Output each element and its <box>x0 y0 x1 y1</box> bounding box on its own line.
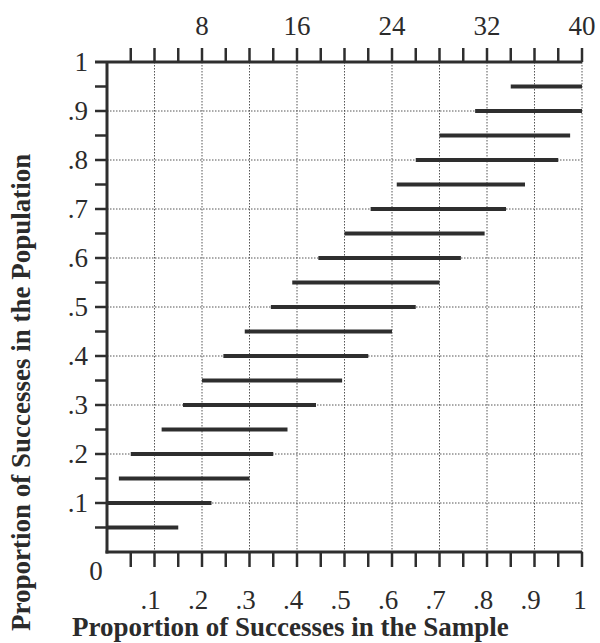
y-tick-label: .1 <box>68 488 88 518</box>
x-tick-label: .5 <box>330 585 350 615</box>
y-tick-label: .2 <box>68 439 88 469</box>
top-tick-label: 24 <box>379 11 407 41</box>
x-tick-label: 1 <box>573 585 587 615</box>
y-tick-label: .9 <box>68 96 88 126</box>
top-tick-label: 8 <box>195 11 209 41</box>
top-tick-label: 40 <box>569 11 596 41</box>
y-tick-label: .3 <box>68 390 88 420</box>
y-tick-label: .6 <box>68 243 88 273</box>
y-axis-label: Proportion of Successes in the Populatio… <box>6 11 37 631</box>
x-tick-label: .7 <box>425 585 445 615</box>
y-tick-label: 0 <box>89 556 103 586</box>
x-tick-label: .2 <box>188 585 208 615</box>
x-axis-label: Proportion of Successes in the Sample <box>72 612 509 643</box>
x-tick-label: .6 <box>378 585 398 615</box>
y-tick-label: .7 <box>68 194 88 224</box>
x-tick-label: .3 <box>235 585 255 615</box>
y-tick-label: .5 <box>68 292 88 322</box>
x-tick-label: .9 <box>520 585 540 615</box>
y-tick-label: .8 <box>68 145 88 175</box>
tick-labels: 0.1.2.3.4.5.6.7.8.91.1.2.3.4.5.6.7.8.918… <box>68 11 596 615</box>
x-tick-label: .1 <box>140 585 160 615</box>
x-tick-label: .8 <box>473 585 493 615</box>
top-tick-label: 32 <box>474 11 501 41</box>
y-tick-label: 1 <box>75 47 89 77</box>
y-tick-label: .4 <box>68 341 89 371</box>
x-tick-label: .4 <box>283 585 304 615</box>
top-tick-label: 16 <box>284 11 311 41</box>
